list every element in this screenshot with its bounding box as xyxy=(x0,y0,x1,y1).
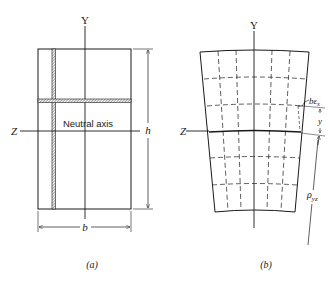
horizontal-strip xyxy=(38,99,131,103)
y-dim-label: y xyxy=(317,116,322,126)
panel-b-caption: (b) xyxy=(260,259,272,271)
b-label: b xyxy=(82,221,88,233)
grid-line-h5 xyxy=(212,184,297,186)
h-label: h xyxy=(145,124,151,136)
original-fiber-end xyxy=(298,106,300,131)
panel-a-caption: (a) xyxy=(86,259,98,271)
grid-line-h4 xyxy=(210,157,300,159)
y-ext-bottom xyxy=(301,133,325,136)
radius-arrow xyxy=(318,136,319,145)
z-axis-label: Z xyxy=(11,125,18,137)
strain-leader xyxy=(302,100,309,106)
y-axis-label-b: Y xyxy=(250,19,258,31)
panel-b: Y Z bεx y ρyz (b) xyxy=(180,19,328,271)
neutral-axis-label: Neutral axis xyxy=(63,118,113,129)
neutral-axis-b xyxy=(209,131,301,133)
vertical-strip xyxy=(52,49,56,209)
y-axis-label: Y xyxy=(81,14,89,26)
y-ext-top xyxy=(303,106,325,108)
z-axis-label-b: Z xyxy=(180,125,187,137)
strain-label: bεx xyxy=(309,96,320,107)
beam-bending-diagram: Y Z Neutral axis h b (a) Y xyxy=(0,0,333,282)
grid-line-h2 xyxy=(207,104,303,106)
panel-a: Y Z Neutral axis h b (a) xyxy=(11,14,153,271)
